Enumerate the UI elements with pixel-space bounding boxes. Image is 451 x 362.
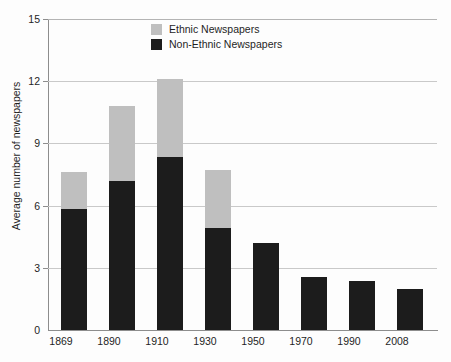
y-tick-label-0: 0 [6, 325, 40, 336]
bar-segment-non-ethnic [109, 181, 135, 330]
legend-item-non-ethnic[interactable]: Non-Ethnic Newspapers [151, 37, 282, 51]
gridline-3 [48, 268, 437, 269]
y-tick-label-15: 15 [6, 14, 40, 25]
bar-segment-non-ethnic [205, 228, 231, 330]
legend-swatch-non-ethnic-icon [151, 39, 162, 50]
plot-area [48, 19, 437, 330]
bar-1990[interactable] [349, 281, 375, 330]
chart-legend: Ethnic Newspapers Non-Ethnic Newspapers [151, 22, 282, 52]
bar-chart: 15 12 9 6 3 0 Average number of newspape… [0, 0, 451, 362]
gridline-9 [48, 143, 437, 144]
legend-swatch-ethnic-icon [151, 24, 162, 35]
gridline-6 [48, 206, 437, 207]
bar-segment-non-ethnic [397, 289, 423, 330]
bar-1950[interactable] [253, 243, 279, 330]
bar-1930[interactable] [205, 170, 231, 330]
bar-segment-ethnic [61, 172, 87, 208]
y-tick-label-3: 3 [6, 263, 40, 274]
bar-segment-non-ethnic [157, 157, 183, 330]
bar-1970[interactable] [301, 277, 327, 330]
x-tick-label-2008: 2008 [367, 336, 427, 347]
legend-item-ethnic[interactable]: Ethnic Newspapers [151, 22, 282, 36]
bar-segment-non-ethnic [349, 281, 375, 330]
bar-segment-non-ethnic [253, 243, 279, 330]
bar-segment-ethnic [109, 106, 135, 181]
x-axis-line [48, 330, 438, 331]
bar-1910[interactable] [157, 79, 183, 330]
bar-segment-ethnic [205, 170, 231, 228]
gridline-15 [48, 19, 437, 20]
y-axis-title: Average number of newspapers [10, 66, 22, 246]
bar-segment-ethnic [157, 79, 183, 157]
bar-1890[interactable] [109, 106, 135, 330]
bar-segment-non-ethnic [61, 209, 87, 330]
bar-2008[interactable] [397, 289, 423, 330]
bar-1869[interactable] [61, 172, 87, 330]
legend-label-ethnic: Ethnic Newspapers [169, 24, 259, 35]
legend-label-non-ethnic: Non-Ethnic Newspapers [169, 39, 282, 50]
bar-segment-non-ethnic [301, 277, 327, 330]
gridline-12 [48, 81, 437, 82]
